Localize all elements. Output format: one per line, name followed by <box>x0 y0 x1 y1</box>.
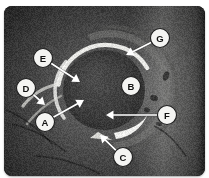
mri-image <box>4 6 205 176</box>
figure-root: ABCDEFG <box>0 0 209 178</box>
mri-image-plate <box>4 6 205 176</box>
